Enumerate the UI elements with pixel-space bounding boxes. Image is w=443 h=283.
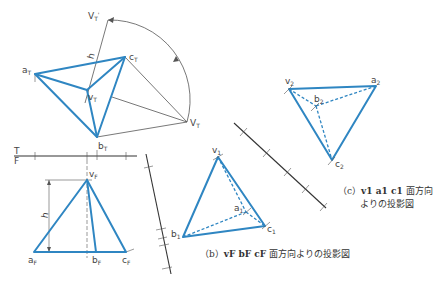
label-bF: bF — [92, 255, 102, 266]
fold-label-T: T — [13, 146, 20, 156]
arc-arrowhead-icon — [108, 17, 114, 23]
top-view-tetrahedron — [35, 57, 125, 137]
top-view-construction — [35, 17, 190, 137]
label-VT: VT — [190, 118, 200, 129]
label-c2: c2 — [335, 159, 344, 170]
label-cT: cT — [129, 52, 138, 63]
label-b2: b2 — [314, 94, 324, 105]
label-v2: v2 — [285, 76, 294, 87]
construction-line-vt-bt — [97, 122, 187, 137]
projection-diagram: aT cT vT bT VT VT' h T F vF aF bF cF h — [0, 0, 443, 283]
fold-line-TF — [14, 150, 137, 160]
label-a2: a2 — [371, 75, 381, 86]
label-bT: bT — [98, 141, 108, 152]
reference-line-1 — [144, 154, 172, 274]
label-aF: aF — [28, 255, 38, 266]
label-vF: vF — [89, 169, 98, 180]
arc-arrow-icon — [173, 56, 179, 62]
aux-view-1-tetrahedron — [183, 154, 270, 237]
caption-b: （b）vF bF cF面方向よりの投影図 — [200, 248, 350, 259]
label-v1: v1 — [212, 145, 221, 156]
label-cF: cF — [122, 255, 131, 266]
construction-line-vt-ct — [125, 57, 187, 122]
label-h-top: h — [85, 52, 96, 60]
caption-c-line2: よりの投影図 — [360, 198, 414, 209]
label-vT: vT — [88, 92, 97, 103]
label-aT: aT — [22, 65, 32, 76]
reference-line-2 — [234, 123, 327, 211]
label-VT-prime: VT' — [88, 11, 100, 22]
label-b1: b1 — [171, 229, 181, 240]
label-c1: c1 — [267, 224, 276, 235]
fold-label-F: F — [14, 156, 19, 166]
caption-c-line1: （c）v1 a1 c1面方向 — [338, 185, 433, 196]
construction-line-vt-mid — [112, 97, 187, 122]
label-a1: a1 — [234, 203, 244, 214]
aux-view-2-tetrahedron — [284, 86, 376, 165]
